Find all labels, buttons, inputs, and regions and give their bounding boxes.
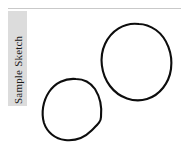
sketch-page: Sample Sketch: [0, 0, 181, 152]
sketch-canvas: [0, 0, 181, 152]
lower-left-loop: [43, 79, 102, 140]
upper-right-loop: [102, 24, 172, 101]
